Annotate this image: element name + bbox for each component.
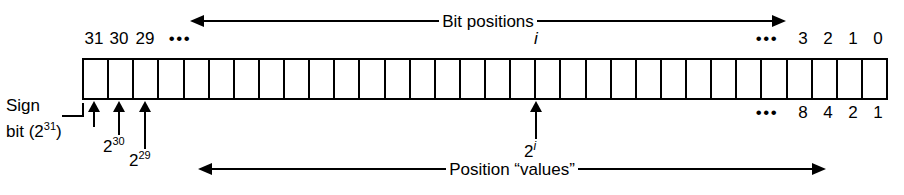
sign-bit-exponent: 31 (44, 120, 56, 132)
bit-label-2: 2 (823, 30, 832, 47)
pow-i-pointer-arrow-icon (530, 101, 542, 139)
arrow-right-icon (772, 15, 786, 27)
pow30-pointer-arrow-icon (113, 101, 125, 135)
bit-positions-label: Bit positions (439, 13, 537, 30)
pow30-exponent: 30 (112, 135, 124, 147)
position-value-4: 4 (823, 104, 832, 121)
arrow-left-icon (198, 163, 212, 175)
position-value-1: 1 (873, 104, 882, 121)
bit-cell[interactable] (134, 60, 159, 98)
sign-bit-prefix: bit (2 (6, 122, 44, 141)
bit-cell[interactable] (687, 60, 712, 98)
position-value-8: 8 (798, 104, 807, 121)
bit-cell[interactable] (109, 60, 134, 98)
bit-cell[interactable] (587, 60, 612, 98)
sign-bit-line2: bit (231) (6, 116, 62, 142)
sign-bit-pointer-arrow-icon (88, 101, 100, 127)
bit-label-left-ellipsis: ••• (169, 30, 191, 47)
bit-cell[interactable] (486, 60, 511, 98)
position-value-ellipsis: ••• (756, 104, 778, 121)
bit-position-diagram: Bit positions 31 30 29 ••• i ••• 3 2 1 0 (0, 0, 904, 195)
bit-cell[interactable] (662, 60, 687, 98)
bit-label-1: 1 (848, 30, 857, 47)
pow29-pointer-arrow-icon (139, 101, 151, 149)
caption-rule-right (578, 168, 812, 170)
sign-bit-line1: Sign (6, 96, 62, 116)
bit-cell[interactable] (235, 60, 260, 98)
pow30-annotation: 230 (103, 136, 125, 155)
bit-cell[interactable] (612, 60, 637, 98)
bit-cell[interactable] (511, 60, 536, 98)
bit-label-3: 3 (798, 30, 807, 47)
bit-cell[interactable] (436, 60, 461, 98)
pow29-exponent: 29 (138, 149, 150, 161)
sign-bit-suffix: ) (56, 122, 62, 141)
caption-rule-left (212, 168, 446, 170)
bit-cell[interactable] (185, 60, 210, 98)
bit-cell[interactable] (386, 60, 411, 98)
pow-i-exponent: i (533, 139, 536, 153)
bit-cell[interactable] (637, 60, 662, 98)
bit-cell[interactable] (260, 60, 285, 98)
pow-i-annotation: 2i (524, 140, 536, 160)
bit-cell[interactable] (360, 60, 385, 98)
pow29-annotation: 229 (129, 150, 151, 169)
position-values-caption-bar: Position “values” (198, 158, 826, 180)
bit-label-30: 30 (110, 30, 129, 47)
bit-cell-row (82, 58, 888, 100)
bit-cell[interactable] (762, 60, 787, 98)
bit-label-i: i (534, 30, 538, 47)
bit-cell[interactable] (561, 60, 586, 98)
bit-cell[interactable] (712, 60, 737, 98)
bit-cell[interactable] (737, 60, 762, 98)
caption-rule-left (204, 20, 439, 22)
bit-cell[interactable] (536, 60, 561, 98)
bit-cell[interactable] (788, 60, 813, 98)
sign-bit-annotation: Sign bit (231) (6, 96, 62, 142)
arrow-left-icon (190, 15, 204, 27)
bit-cell[interactable] (813, 60, 838, 98)
bit-cell[interactable] (84, 60, 109, 98)
bit-cell[interactable] (461, 60, 486, 98)
bit-label-31: 31 (85, 30, 104, 47)
bit-cell[interactable] (310, 60, 335, 98)
arrow-right-icon (812, 163, 826, 175)
bit-cell[interactable] (159, 60, 184, 98)
bit-cell[interactable] (411, 60, 436, 98)
bit-cell[interactable] (285, 60, 310, 98)
bit-cell[interactable] (838, 60, 863, 98)
position-values-label: Position “values” (446, 161, 578, 178)
sign-bit-leader-vertical (82, 103, 84, 117)
bit-positions-caption-bar: Bit positions (190, 10, 786, 32)
bit-cell[interactable] (335, 60, 360, 98)
bit-cell[interactable] (210, 60, 235, 98)
position-value-2: 2 (848, 104, 857, 121)
bit-cell[interactable] (863, 60, 886, 98)
bit-label-right-ellipsis: ••• (756, 30, 778, 47)
bit-label-29: 29 (136, 30, 155, 47)
sign-bit-leader-horizontal (62, 115, 84, 117)
caption-rule-right (537, 20, 772, 22)
bit-label-0: 0 (873, 30, 882, 47)
